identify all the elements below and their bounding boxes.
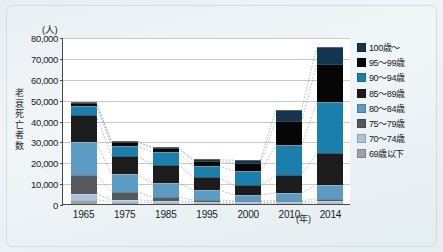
y-tick-mark [60,101,63,102]
bar-segment [317,47,343,65]
y-tick-label: 10,000 [31,179,58,190]
chart-legend: 100歳～95～99歳90～94歳85～89歳80～84歳75～79歳70～74… [357,40,435,162]
gridline [63,38,350,39]
bar-segment [276,110,302,121]
x-tick-label: 1975 [103,209,147,220]
bar-segment [194,177,220,190]
bar-segment [317,64,343,102]
bar-1975[interactable]: 1975 [112,141,138,204]
bar-2010[interactable]: 2010 [276,110,302,204]
legend-item[interactable]: 100歳～ [357,40,435,55]
legend-label: 69歳以下 [369,147,404,160]
y-tick-label: 0 [53,200,58,211]
legend-swatch-icon [357,104,366,113]
bar-segment [317,153,343,185]
bar-segment [71,200,97,204]
legend-label: 80～84歳 [369,102,405,115]
legend-item[interactable]: 69歳以下 [357,146,435,161]
bar-segment [235,163,261,171]
legend-item[interactable]: 85～89歳 [357,86,435,101]
chart-figure: (人) 老衰死亡者数 010,00020,00030,00040,00050,0… [0,0,443,252]
bar-1995[interactable]: 1995 [194,159,220,204]
plot-area: 010,00020,00030,00040,00050,00060,00070,… [62,38,350,205]
y-tick-mark [60,80,63,81]
bar-segment [71,115,97,142]
bar-segment [112,174,138,192]
bar-segment [194,203,220,204]
legend-swatch-icon [357,119,366,128]
x-axis-unit-label: (年) [296,212,311,225]
y-tick-mark [60,184,63,185]
legend-swatch-icon [357,134,366,143]
x-tick-label: 2014 [308,209,352,220]
legend-swatch-icon [357,73,366,82]
legend-item[interactable]: 70～74歳 [357,131,435,146]
bar-segment [276,121,302,145]
y-tick-label: 70,000 [31,53,58,64]
legend-label: 95～99歳 [369,56,405,69]
y-tick-label: 30,000 [31,137,58,148]
y-tick-label: 20,000 [31,158,58,169]
bar-segment [71,175,97,194]
y-tick-mark [60,122,63,123]
y-tick-label: 60,000 [31,74,58,85]
bar-segment [153,152,179,165]
legend-swatch-icon [357,58,366,67]
bar-segment [194,190,220,200]
bar-segment [112,202,138,204]
bar-segment [276,203,302,204]
y-tick-mark [60,163,63,164]
legend-label: 100歳～ [369,41,400,54]
bar-1965[interactable]: 1965 [71,102,97,204]
bar-segment [276,193,302,201]
legend-swatch-icon [357,43,366,52]
x-tick-label: 1995 [185,209,229,220]
bar-segment [317,185,343,199]
legend-item[interactable]: 75～79歳 [357,116,435,131]
bar-segment [112,146,138,156]
bar-segment [235,185,261,194]
bar-segment [71,106,97,116]
gridline [63,80,350,81]
y-tick-label: 40,000 [31,116,58,127]
y-tick-label: 50,000 [31,95,58,106]
legend-swatch-icon [357,149,366,158]
y-tick-mark [60,205,63,206]
legend-label: 85～89歳 [369,87,405,100]
gridline [63,142,350,143]
bar-segment [276,175,302,193]
legend-label: 70～74歳 [369,132,405,145]
bar-segment [153,183,179,197]
bar-segment [235,203,261,204]
legend-swatch-icon [357,89,366,98]
legend-label: 75～79歳 [369,117,405,130]
x-tick-label: 1985 [144,209,188,220]
gridline [63,59,350,60]
bar-2014[interactable]: 2014 [317,47,343,204]
gridline [63,122,350,123]
y-tick-label: 80,000 [31,33,58,44]
bar-segment [112,192,138,200]
legend-item[interactable]: 95～99歳 [357,55,435,70]
bar-segment [153,165,179,184]
y-tick-mark [60,142,63,143]
x-tick-label: 2000 [226,209,270,220]
bar-segment [194,166,220,177]
bar-segment [317,203,343,204]
y-axis-title: 老衰死亡者数 [13,88,25,151]
legend-item[interactable]: 90～94歳 [357,70,435,85]
y-tick-mark [60,38,63,39]
bar-1985[interactable]: 1985 [153,147,179,204]
bar-segment [276,145,302,175]
gridline [63,101,350,102]
y-tick-mark [60,59,63,60]
x-tick-label: 1965 [62,209,106,220]
bar-segment [153,203,179,204]
legend-item[interactable]: 80～84歳 [357,101,435,116]
bar-segment [71,142,97,175]
bar-segment [112,156,138,174]
bar-segment [235,171,261,185]
bar-2000[interactable]: 2000 [235,160,261,204]
bar-segment [317,102,343,153]
legend-label: 90～94歳 [369,71,405,84]
